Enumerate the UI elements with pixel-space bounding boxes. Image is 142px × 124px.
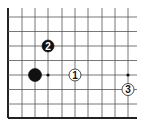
go-board-diagram: 123 [0, 0, 142, 124]
board-grid [8, 8, 137, 118]
stones: 123 [29, 40, 135, 96]
star-point-icon [46, 73, 49, 76]
white-stone-3: 3 [122, 84, 134, 96]
star-point-icon [126, 73, 129, 76]
move-number-label: 2 [45, 41, 51, 52]
move-number-label: 3 [125, 84, 131, 95]
black-stone-icon [29, 69, 42, 82]
white-stone-1: 1 [69, 69, 81, 81]
black-stone-2: 2 [42, 40, 54, 52]
black-stone [29, 69, 42, 82]
move-number-label: 1 [72, 70, 78, 81]
